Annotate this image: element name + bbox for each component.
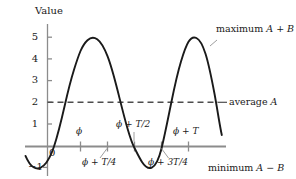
minimum-annotation-minus: −: [263, 162, 277, 173]
minimum-annotation: minimum A − B: [208, 163, 284, 173]
y-tick-label-negative-1: −1: [28, 162, 42, 172]
x-tick-label-phi-plus-T: ϕ + T: [173, 127, 198, 136]
x-tick-label-phi-plus-3T-over-4: ϕ + 3T/4: [148, 158, 188, 167]
minimum-annotation-B: B: [277, 162, 284, 173]
minimum-annotation-prefix: minimum: [208, 162, 256, 173]
y-tick-label-4: 4: [24, 54, 38, 64]
average-annotation-A: A: [271, 96, 278, 107]
maximum-annotation-plus: +: [273, 23, 287, 34]
y-tick-label-2: 2: [24, 97, 38, 107]
y-tick-label-3: 3: [24, 75, 38, 85]
x-tick-label-phi-plus-T-over-4: ϕ + T/4: [82, 158, 116, 167]
leader-line-maximum: [210, 40, 217, 46]
x-tick-label-phi: ϕ: [76, 127, 82, 136]
maximum-annotation-prefix: maximum: [216, 23, 266, 34]
y-tick-label-1: 1: [24, 119, 38, 129]
maximum-annotation-B: B: [287, 23, 294, 34]
maximum-annotation: maximum A + B: [216, 24, 294, 34]
y-tick-label-5: 5: [24, 32, 38, 42]
average-annotation: average A: [229, 97, 277, 107]
x-tick-label-phi-plus-T-over-2: ϕ + T/2: [116, 120, 150, 129]
sinusoid-figure: Value 5 4 3 2 1 0 −1 maximum A + B avera…: [0, 0, 296, 179]
y-tick-label-0: 0: [49, 148, 63, 158]
y-axis-title: Value: [35, 6, 63, 16]
average-annotation-prefix: average: [229, 96, 271, 107]
